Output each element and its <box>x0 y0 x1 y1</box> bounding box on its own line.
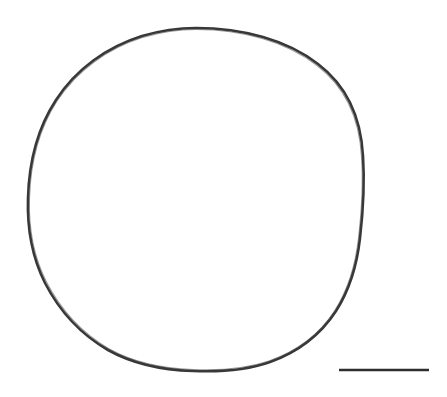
figure-canvas <box>0 0 447 397</box>
figure-root: Specimen outline drawing Line drawing of… <box>0 0 447 397</box>
figure-background <box>0 0 447 397</box>
